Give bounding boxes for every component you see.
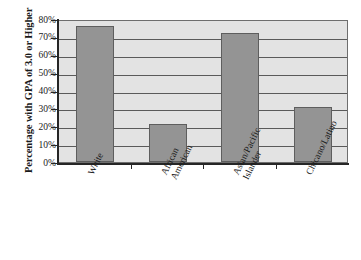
x-tick-mark [131,165,132,169]
y-axis-tick-labels: 0%10%20%30%40%50%60%70%80% [26,14,56,166]
bar [76,26,114,162]
y-tick-mark [51,163,58,164]
y-tick-mark [51,92,58,93]
y-tick-mark [51,74,58,75]
y-tick-mark [51,145,58,146]
y-tick-mark [51,127,58,128]
y-tick-mark [51,109,58,110]
y-tick-mark [51,20,58,21]
y-tick-mark [51,56,58,57]
x-tick-mark [203,165,204,169]
bar-chart: Percentage with GPA of 3.0 or Higher 0%1… [0,0,361,260]
x-tick-mark [276,165,277,169]
y-tick-mark [51,38,58,39]
plot-area [58,20,348,163]
bars-layer [59,21,347,162]
